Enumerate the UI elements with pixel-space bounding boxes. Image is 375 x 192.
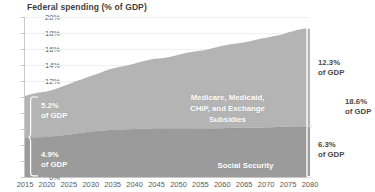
y-axis-tick-mark xyxy=(21,33,24,34)
callout-social-security-2080-unit: of GDP xyxy=(318,150,344,160)
y-axis-tick-mark xyxy=(21,129,24,130)
right-brace-group xyxy=(306,28,318,177)
callout-health-2080-value: 12.3% xyxy=(318,58,344,68)
chart-title: Federal spending (% of GDP) xyxy=(27,2,147,12)
callout-health-2015-value: 5.2% xyxy=(41,101,67,111)
series-label-health-line2: CHIP, and Exchange xyxy=(175,103,280,114)
callout-social-security-2080-value: 6.3% xyxy=(318,140,344,150)
callout-health-2080: 12.3% of GDP xyxy=(318,58,344,78)
y-axis-tick-mark xyxy=(21,177,24,178)
plot-area: Medicare, Medicaid, CHIP, and Exchange S… xyxy=(25,17,310,177)
callout-health-2080-unit: of GDP xyxy=(318,68,344,78)
callout-social-security-2015-value: 4.9% xyxy=(41,150,67,160)
series-label-health-line1: Medicare, Medicaid, xyxy=(175,92,280,103)
x-axis-line xyxy=(24,177,311,178)
y-axis-tick-mark xyxy=(21,113,24,114)
chart-root: Federal spending (% of GDP) 0%2%4%6%8%10… xyxy=(0,0,375,192)
y-axis-tick-mark xyxy=(21,17,24,18)
callout-total-2080-value: 18.6% xyxy=(345,97,371,107)
series-label-health: Medicare, Medicaid, CHIP, and Exchange S… xyxy=(175,92,280,125)
series-label-social-security: Social Security xyxy=(203,160,288,171)
left-brace-group xyxy=(29,96,41,177)
callout-health-2015-unit: of GDP xyxy=(41,111,67,121)
callout-health-2015: 5.2% of GDP xyxy=(41,101,67,121)
y-axis-tick-mark xyxy=(21,97,24,98)
x-axis-tick-label: 2080 xyxy=(295,180,325,189)
callout-social-security-2080: 6.3% of GDP xyxy=(318,140,344,160)
callout-total-2080-unit: of GDP xyxy=(345,107,371,117)
y-axis-tick-mark xyxy=(21,65,24,66)
callout-social-security-2015-unit: of GDP xyxy=(41,160,67,170)
y-axis-tick-mark xyxy=(21,49,24,50)
y-axis-tick-mark xyxy=(21,145,24,146)
left-brace-path xyxy=(29,97,38,176)
callout-total-2080: 18.6% of GDP xyxy=(345,97,371,117)
callout-social-security-2015: 4.9% of GDP xyxy=(41,150,67,170)
series-label-health-line3: Subsidies xyxy=(175,114,280,125)
y-axis-tick-mark xyxy=(21,161,24,162)
y-axis-tick-mark xyxy=(21,81,24,82)
